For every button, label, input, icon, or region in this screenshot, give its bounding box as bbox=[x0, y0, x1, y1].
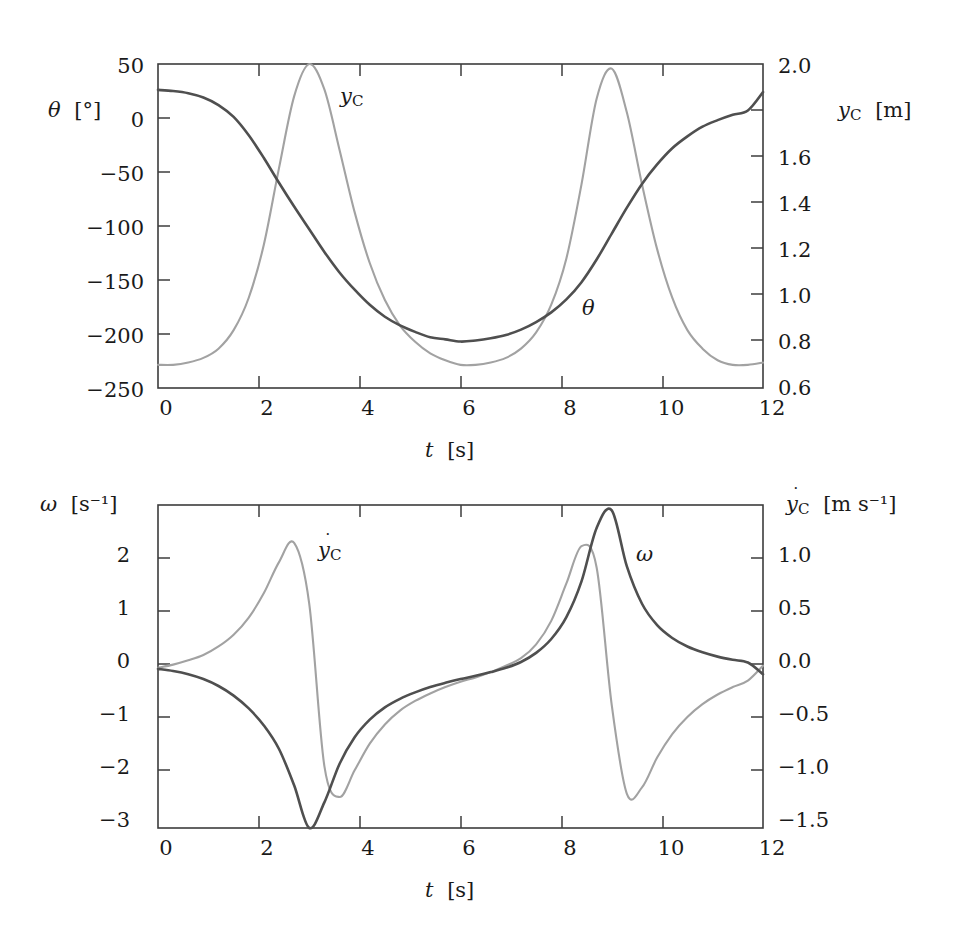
bottom-plot-canvas bbox=[0, 0, 975, 941]
bottom-ticks-right bbox=[751, 558, 763, 770]
bottom-plot-frame bbox=[158, 505, 763, 828]
bottom-ticks-left bbox=[158, 558, 170, 770]
figure-root: θ [°] 50 0 −50 −100 −150 −200 −250 yC [m… bbox=[0, 0, 975, 941]
curve-ydot-c bbox=[158, 541, 763, 799]
panel-bottom: ω [s⁻¹] 2 1 0 −1 −2 −3 ˙yC [m s⁻¹] 1.0 0… bbox=[0, 0, 975, 941]
bottom-ticks-bottom bbox=[259, 816, 663, 828]
curve-omega bbox=[158, 509, 763, 829]
